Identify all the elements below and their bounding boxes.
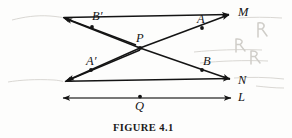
point-b-prime (90, 25, 94, 29)
ray-p-to-upper-left (65, 19, 140, 49)
ray-p-to-n (140, 48, 230, 79)
point-a-prime (89, 68, 93, 72)
pencil-letter-group (236, 23, 267, 64)
label-n: N (238, 74, 246, 87)
label-b: B (203, 55, 211, 68)
figure-container: B′ M A P A′ B N L Q FIGURE 4.1 (0, 0, 292, 138)
line-a-prime-n-right-segment (66, 79, 230, 82)
ray-p-to-m (140, 15, 229, 48)
label-p: P (136, 32, 144, 45)
geometry-diagram (0, 0, 292, 138)
label-m: M (238, 6, 248, 19)
point-q (138, 95, 142, 99)
point-p (138, 46, 142, 50)
pencil-mark-r-3-icon (251, 51, 260, 64)
label-a-prime: A′ (86, 55, 96, 68)
label-a: A (197, 13, 205, 26)
pencil-smudge-lower-left (8, 80, 63, 82)
point-a (200, 26, 204, 30)
label-b-prime: B′ (92, 10, 102, 23)
label-q: Q (135, 100, 144, 113)
ray-p-to-lower-left (67, 48, 140, 81)
label-l: L (238, 91, 245, 104)
point-b (200, 68, 204, 72)
pencil-smudge-upper-left (12, 16, 62, 20)
pencil-smudge-right-low (256, 86, 284, 88)
figure-caption: FIGURE 4.1 (113, 122, 174, 133)
pencil-mark-r-1-icon (258, 23, 267, 37)
